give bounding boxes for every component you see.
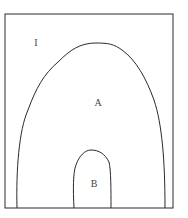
label-region-b: B (91, 178, 98, 189)
label-region-a: A (94, 97, 102, 108)
nested-regions-diagram: I A B (0, 0, 188, 218)
label-region-i: I (34, 37, 37, 48)
